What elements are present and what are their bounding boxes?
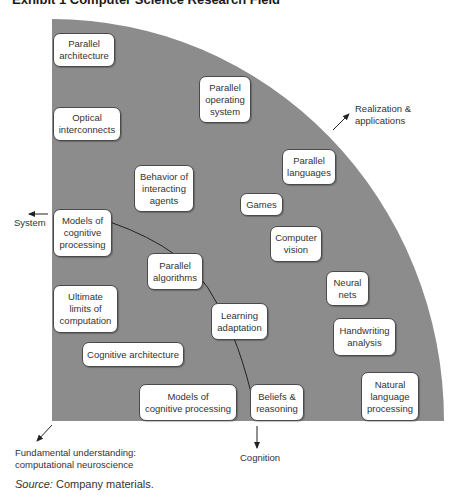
box-parallel-languages: Parallel languages (282, 149, 336, 185)
realization-label: Realization & applications (355, 103, 411, 127)
box-computer-vision: Computer vision (270, 226, 322, 262)
box-learning-adaptation: Learning adaptation (211, 303, 268, 340)
realization-arrow (333, 114, 349, 130)
source-text: Company materials. (53, 478, 154, 490)
box-handwriting-analysis: Handwriting analysis (333, 318, 396, 356)
box-optical-interconnects: Optical interconnects (53, 107, 121, 141)
system-label: System (14, 217, 46, 229)
box-parallel-algorithms: Parallel algorithms (147, 253, 203, 290)
box-models-of-cognitive-processing-top: Models of cognitive processing (53, 209, 112, 257)
cognition-label: Cognition (240, 452, 280, 464)
box-natural-language-processing: Natural language processing (361, 372, 419, 421)
box-parallel-architecture: Parallel architecture (53, 33, 115, 67)
source-label: Source: (15, 478, 53, 490)
box-behavior-of-interacting-agents: Behavior of interacting agents (134, 165, 194, 212)
box-parallel-operating-system: Parallel operating system (199, 76, 251, 123)
box-cognitive-architecture: Cognitive architecture (82, 342, 184, 367)
fundamental-arrow (37, 425, 52, 441)
box-models-of-cognitive-processing-bottom: Models of cognitive processing (139, 384, 237, 421)
box-ultimate-limits-of-computation: Ultimate limits of computation (53, 285, 118, 333)
box-beliefs-reasoning: Beliefs & reasoning (250, 384, 304, 421)
source-note: Source: Company materials. (15, 478, 154, 490)
box-games: Games (240, 193, 283, 216)
box-neural-nets: Neural nets (326, 271, 369, 306)
fundamental-label: Fundamental understanding: computational… (15, 447, 136, 471)
